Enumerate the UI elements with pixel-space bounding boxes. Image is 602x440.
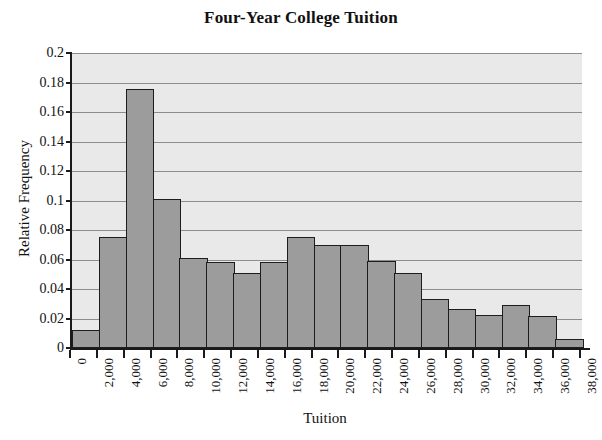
- bar: [448, 309, 476, 348]
- bar: [475, 315, 503, 348]
- x-axis-tick: [364, 350, 366, 358]
- x-axis-tick-label: 12,000: [236, 358, 249, 394]
- x-axis-tick-label: 30,000: [478, 358, 491, 394]
- x-axis-tick: [123, 350, 125, 358]
- bar: [260, 262, 288, 348]
- bar: [126, 89, 154, 348]
- bar: [528, 316, 556, 348]
- x-axis-tick: [257, 350, 259, 358]
- bar: [233, 273, 261, 348]
- x-axis-title: Tuition: [70, 410, 580, 427]
- bar: [367, 261, 395, 348]
- bar: [153, 199, 181, 348]
- x-axis-tick: [69, 350, 71, 358]
- plot-area: [70, 53, 582, 350]
- x-axis-tick-label: 0: [75, 358, 88, 365]
- x-axis-tick-label: 18,000: [317, 358, 330, 394]
- y-axis-tick: [66, 141, 72, 143]
- bar: [394, 273, 422, 348]
- x-axis-tick-label: 2,000: [102, 358, 115, 387]
- x-axis-tick: [230, 350, 232, 358]
- bar: [421, 299, 449, 348]
- bar: [555, 339, 583, 348]
- y-axis-tick: [66, 170, 72, 172]
- y-axis-tick: [66, 259, 72, 261]
- x-axis-tick: [391, 350, 393, 358]
- x-axis-tick-label: 10,000: [209, 358, 222, 394]
- y-axis-tick-label: 0.06: [0, 252, 64, 268]
- y-axis-tick: [66, 200, 72, 202]
- y-axis-tick: [66, 52, 72, 54]
- y-axis-tick-label: 0.1: [0, 193, 64, 209]
- bar: [314, 245, 342, 348]
- x-axis-tick-label: 20,000: [343, 358, 356, 394]
- x-axis-tick: [284, 350, 286, 358]
- histogram-chart: Four-Year College Tuition Relative Frequ…: [0, 0, 602, 440]
- x-axis-tick: [311, 350, 313, 358]
- x-axis-tick-label: 22,000: [370, 358, 383, 394]
- x-axis-tick: [579, 350, 581, 358]
- x-axis-tick-label: 16,000: [290, 358, 303, 394]
- y-axis-tick: [66, 318, 72, 320]
- bar: [206, 262, 234, 348]
- chart-title: Four-Year College Tuition: [0, 8, 602, 28]
- x-axis-tick: [176, 350, 178, 358]
- x-axis-tick: [552, 350, 554, 358]
- bar: [72, 330, 100, 348]
- x-axis-tick-labels: 02,0004,0006,0008,00010,00012,00014,0001…: [70, 358, 580, 408]
- x-axis-tick-label: 32,000: [504, 358, 517, 394]
- y-axis-tick-label: 0.12: [0, 163, 64, 179]
- x-axis-tick-label: 14,000: [263, 358, 276, 394]
- x-axis-tick-label: 4,000: [129, 358, 142, 387]
- y-axis-tick-label: 0.2: [0, 45, 64, 61]
- x-axis-tick-label: 24,000: [397, 358, 410, 394]
- x-axis-tick: [96, 350, 98, 358]
- bar: [340, 245, 368, 348]
- x-axis-tick-label: 6,000: [156, 358, 169, 387]
- x-axis-ticks: [70, 350, 580, 358]
- bar: [179, 258, 207, 348]
- y-axis-tick-label: 0.18: [0, 75, 64, 91]
- bar: [502, 305, 530, 349]
- y-axis-tick: [66, 288, 72, 290]
- y-axis-tick-label: 0.08: [0, 222, 64, 238]
- y-axis-tick-label: 0.04: [0, 281, 64, 297]
- bar: [287, 237, 315, 348]
- y-axis-tick-label: 0: [0, 340, 64, 356]
- x-axis-tick: [418, 350, 420, 358]
- y-axis-tick: [66, 111, 72, 113]
- x-axis-tick-label: 34,000: [531, 358, 544, 394]
- bar-series: [72, 53, 582, 348]
- bar: [99, 237, 127, 348]
- x-axis-tick: [498, 350, 500, 358]
- x-axis-tick-label: 36,000: [558, 358, 571, 394]
- x-axis-tick-label: 38,000: [585, 358, 598, 394]
- y-axis-tick-labels: 00.020.040.060.080.10.120.140.160.180.2: [0, 53, 64, 348]
- x-axis-tick: [337, 350, 339, 358]
- y-axis-tick-label: 0.02: [0, 311, 64, 327]
- x-axis-tick: [203, 350, 205, 358]
- x-axis-tick: [472, 350, 474, 358]
- y-axis-tick: [66, 229, 72, 231]
- y-axis-tick-label: 0.16: [0, 104, 64, 120]
- x-axis-tick: [150, 350, 152, 358]
- x-axis-tick: [525, 350, 527, 358]
- y-axis-tick-label: 0.14: [0, 134, 64, 150]
- y-axis-tick: [66, 82, 72, 84]
- x-axis-tick-label: 8,000: [182, 358, 195, 387]
- x-axis-tick: [445, 350, 447, 358]
- x-axis-tick-label: 28,000: [451, 358, 464, 394]
- x-axis-tick-label: 26,000: [424, 358, 437, 394]
